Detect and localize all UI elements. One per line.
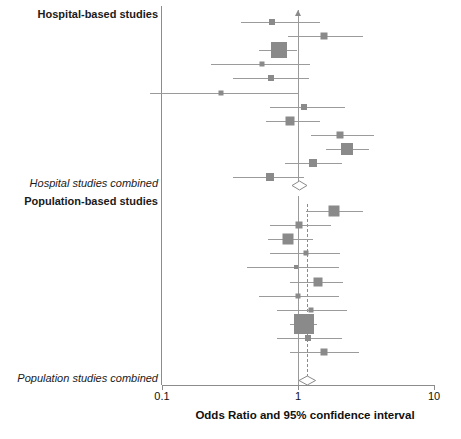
x-axis-title: Odds Ratio and 95% confidence interval <box>195 409 414 421</box>
x-axis-tick-0.1 <box>162 385 163 390</box>
study-effect-marker <box>320 349 327 356</box>
confidence-interval-line <box>241 22 320 23</box>
xtick-label-0.1: 0.1 <box>154 390 169 402</box>
study-effect-marker <box>329 206 340 217</box>
study-effect-marker <box>341 143 353 155</box>
summary-diamond <box>298 375 317 386</box>
study-effect-marker <box>313 277 322 286</box>
y-axis-spine <box>161 6 162 385</box>
study-effect-marker <box>285 116 294 125</box>
study-effect-marker <box>308 307 313 312</box>
study-effect-marker <box>259 62 264 67</box>
study-effect-marker <box>271 42 287 58</box>
study-effect-marker <box>309 159 317 167</box>
study-effect-marker <box>268 75 274 81</box>
x-axis-tick-1 <box>298 385 299 390</box>
study-effect-marker <box>283 234 294 245</box>
xtick-label-10: 10 <box>428 390 440 402</box>
axis-arrow-icon <box>295 10 301 16</box>
study-effect-marker <box>337 131 344 138</box>
group-label-hospital: Hospital-based studies <box>38 9 158 20</box>
pooled-estimate-dashed-line-population <box>307 204 308 382</box>
x-axis-tick-10 <box>434 385 435 390</box>
summary-label-hospital: Hospital studies combined <box>30 178 158 189</box>
study-effect-marker <box>296 222 303 229</box>
study-effect-marker <box>296 293 301 298</box>
study-effect-marker <box>266 173 274 181</box>
study-effect-marker <box>320 33 327 40</box>
summary-diamond <box>291 180 308 191</box>
confidence-interval-line <box>150 93 298 94</box>
xtick-label-1: 1 <box>295 390 301 402</box>
study-effect-marker <box>305 335 311 341</box>
study-effect-marker <box>294 314 314 334</box>
forest-plot: Hospital-based studies Hospital studies … <box>0 0 461 439</box>
study-effect-marker <box>269 19 275 25</box>
study-effect-marker <box>301 104 307 110</box>
summary-label-population: Population studies combined <box>17 373 158 384</box>
study-effect-marker <box>304 251 309 256</box>
study-effect-marker <box>218 90 223 95</box>
study-effect-marker <box>294 265 298 269</box>
confidence-interval-line <box>270 107 345 108</box>
group-label-population: Population-based studies <box>24 196 158 207</box>
